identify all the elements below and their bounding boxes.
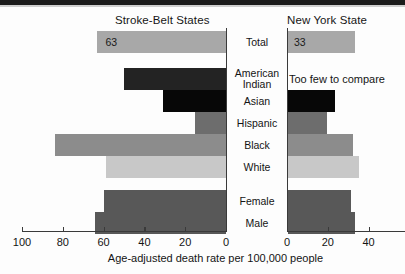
panel-title-new-york: New York State (287, 14, 367, 26)
bar-row (0, 156, 405, 178)
bar-stroke-belt-asian (163, 90, 226, 112)
bar-new-york-hispanic (288, 112, 327, 134)
category-label-line: Indian (228, 79, 287, 90)
category-label-line: Female (228, 196, 287, 207)
right-axis-tick-label: 40 (362, 236, 374, 248)
left-axis-tick-label: 0 (223, 236, 229, 248)
bar-stroke-belt-hispanic (195, 112, 226, 134)
category-label-male: Male (228, 218, 287, 229)
bar-row (0, 90, 405, 112)
category-label-line: White (228, 162, 287, 173)
right-zero-axis (287, 28, 288, 231)
top-rule-divider (0, 0, 405, 5)
bar-stroke-belt-female (104, 190, 226, 212)
category-label-total: Total (228, 37, 287, 48)
x-axis-label: Age-adjusted death rate per 100,000 peop… (0, 252, 405, 264)
x-axes: 10080604020002040 (0, 231, 405, 249)
bar-new-york-black (288, 134, 353, 156)
category-label-line: Male (228, 218, 287, 229)
bar-value-label: 33 (294, 36, 306, 48)
category-label-asian: Asian (228, 96, 287, 107)
right-axis-tick (287, 227, 288, 232)
plot-area: 6333Too few to compare TotalAmericanIndi… (0, 28, 405, 233)
category-label-line: Total (228, 37, 287, 48)
right-axis-tick-label: 20 (322, 236, 334, 248)
bar-new-york-asian (288, 90, 335, 112)
left-zero-axis (226, 28, 227, 231)
bar-row (0, 112, 405, 134)
left-axis-tick (63, 227, 64, 232)
right-axis-tick (369, 227, 370, 232)
left-axis-rule (22, 231, 226, 232)
bar-stroke-belt-total: 63 (97, 31, 226, 53)
bar-stroke-belt-american-indian (124, 68, 226, 90)
left-axis-tick-label: 60 (97, 236, 109, 248)
bar-new-york-female (288, 190, 351, 212)
left-axis-tick (22, 227, 23, 232)
left-axis-tick (185, 227, 186, 232)
category-label-white: White (228, 162, 287, 173)
chart-figure: Stroke-Belt States New York State 6333To… (0, 0, 405, 274)
bar-row: Too few to compare (0, 68, 405, 90)
panel-title-stroke-belt: Stroke-Belt States (115, 14, 209, 26)
left-axis-tick-label: 40 (138, 236, 150, 248)
right-axis-tick (328, 227, 329, 232)
bar-row: 6333 (0, 31, 405, 53)
right-axis-rule (287, 231, 405, 232)
category-label-female: Female (228, 196, 287, 207)
category-label-line: Asian (228, 96, 287, 107)
bar-new-york-white (288, 156, 359, 178)
category-label-hispanic: Hispanic (228, 118, 287, 129)
x-axis-label-text: Age-adjusted death rate per 100,000 peop… (82, 252, 323, 264)
category-gutter: TotalAmericanIndianAsianHispanicBlackWhi… (228, 28, 287, 231)
category-label-line: Black (228, 140, 287, 151)
left-axis-tick (144, 227, 145, 232)
left-axis-tick-label: 100 (13, 236, 31, 248)
too-few-to-compare-note: Too few to compare (289, 73, 385, 85)
category-label-american-indian: AmericanIndian (228, 68, 287, 90)
left-axis-tick-label: 20 (179, 236, 191, 248)
bar-stroke-belt-white (106, 156, 226, 178)
bar-stroke-belt-black (55, 134, 226, 156)
bar-row (0, 190, 405, 212)
right-axis-tick-label: 0 (284, 236, 290, 248)
left-axis-tick-label: 80 (57, 236, 69, 248)
bar-new-york-total: 33 (288, 31, 355, 53)
left-axis-tick (104, 227, 105, 232)
bar-value-label: 63 (105, 36, 117, 48)
bar-row (0, 134, 405, 156)
category-label-line: Hispanic (228, 118, 287, 129)
left-axis-tick (226, 227, 227, 232)
category-label-black: Black (228, 140, 287, 151)
